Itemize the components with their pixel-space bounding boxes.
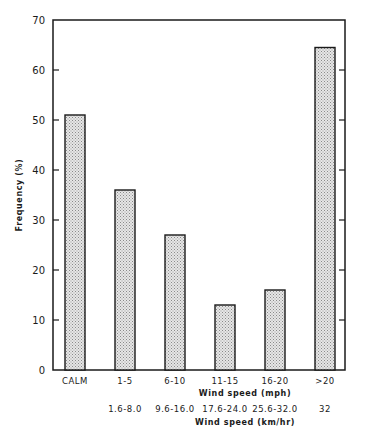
x-axis-title-mph: Wind speed (mph) [199, 389, 291, 398]
y-tick-label: 10 [32, 315, 45, 326]
x-secondary-category-label: 32 [319, 404, 331, 414]
bars [65, 48, 335, 371]
bar-chart: 010203040506070 CALM1-51.6-8.06-109.6-16… [0, 0, 366, 438]
x-axis-title-kmhr: Wind speed (km/hr) [195, 418, 295, 427]
x-secondary-category-label: 9.6-16.0 [155, 404, 195, 414]
y-axis-title: Frequency (%) [15, 159, 24, 232]
y-tick-label: 20 [32, 265, 45, 276]
bar-610 [165, 235, 185, 370]
x-category-label: >20 [315, 376, 334, 386]
plot-frame [53, 20, 345, 370]
bar-calm [65, 115, 85, 370]
x-category-label: 1-5 [117, 376, 132, 386]
bar-1620 [265, 290, 285, 370]
x-secondary-category-label: 1.6-8.0 [108, 404, 142, 414]
x-secondary-category-label: 25.6-32.0 [252, 404, 297, 414]
y-tick-label: 70 [32, 15, 45, 26]
y-tick-label: 40 [32, 165, 45, 176]
x-category-label: 11-15 [211, 376, 238, 386]
x-secondary-category-label: 17.6-24.0 [202, 404, 247, 414]
plot-border [53, 20, 345, 370]
y-tick-label: 0 [39, 365, 45, 376]
y-tick-label: 50 [32, 115, 45, 126]
bar-15 [115, 190, 135, 370]
bar-20 [315, 48, 335, 371]
y-tick-label: 30 [32, 215, 45, 226]
y-tick-label: 60 [32, 65, 45, 76]
bar-1115 [215, 305, 235, 370]
x-category-label: CALM [62, 376, 88, 386]
x-category-label: 16-20 [261, 376, 288, 386]
x-category-label: 6-10 [164, 376, 185, 386]
